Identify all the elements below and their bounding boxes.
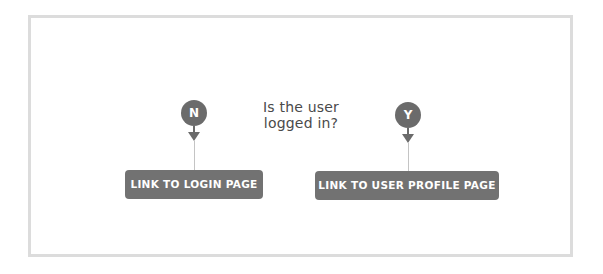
no-connector-line (194, 141, 195, 170)
question-line-1: Is the user (252, 99, 350, 115)
yes-connector-line (408, 143, 409, 171)
yes-marker: Y (395, 102, 421, 128)
link-to-login-page: LINK TO LOGIN PAGE (125, 170, 263, 199)
yes-arrow-down-icon (402, 134, 414, 143)
link-to-user-profile-page: LINK TO USER PROFILE PAGE (315, 171, 499, 200)
question-line-2: logged in? (252, 115, 350, 131)
no-arrow-down-icon (188, 132, 200, 141)
no-marker: N (181, 100, 207, 126)
decision-question: Is the user logged in? (252, 99, 350, 131)
diagram-frame (28, 15, 573, 257)
